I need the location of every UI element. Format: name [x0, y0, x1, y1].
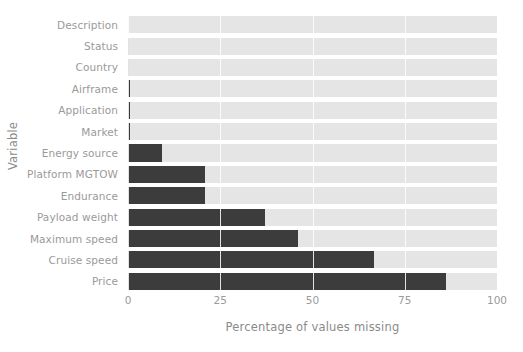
bar-track: [128, 209, 497, 226]
bar-track: [128, 144, 497, 161]
y-axis-tick-label: Platform MGTOW: [27, 167, 118, 181]
bar-track: [128, 123, 497, 140]
bar-track: [128, 38, 497, 55]
x-axis-title: Percentage of values missing: [128, 320, 497, 334]
y-axis-tick-label: Description: [57, 18, 118, 32]
bar-fill: [128, 273, 446, 290]
bar-fill: [128, 80, 130, 97]
bar-fill: [128, 123, 130, 140]
bar-track: [128, 273, 497, 290]
bar-track: [128, 187, 497, 204]
y-axis-tick-label: Country: [76, 60, 118, 74]
bar-track: [128, 59, 497, 76]
bar-fill: [128, 144, 162, 161]
y-axis-tick-label: Market: [81, 125, 118, 139]
missing-values-bar-chart: Variable DescriptionStatusCountryAirfram…: [0, 0, 523, 352]
x-axis-tick-label: 0: [125, 294, 132, 306]
bar-fill: [128, 38, 129, 55]
bar-fill: [128, 209, 265, 226]
y-axis-tick-labels: DescriptionStatusCountryAirframeApplicat…: [26, 14, 124, 292]
bar-fill: [128, 166, 205, 183]
bar-track: [128, 80, 497, 97]
y-axis-tick-label: Energy source: [42, 146, 118, 160]
x-axis-tick-label: 50: [306, 294, 319, 306]
bar-fill: [128, 251, 374, 268]
bar-fill: [128, 230, 298, 247]
bar-fill: [128, 102, 130, 119]
y-axis-tick-label: Airframe: [72, 82, 118, 96]
y-axis-tick-label: Maximum speed: [30, 232, 118, 246]
y-axis-tick-label: Application: [58, 103, 118, 117]
bar-track: [128, 102, 497, 119]
y-axis-title-text: Variable: [6, 122, 20, 170]
x-axis-tick-label: 25: [214, 294, 227, 306]
bar-track: [128, 230, 497, 247]
bar-track: [128, 166, 497, 183]
bar-track: [128, 16, 497, 33]
plot-area: [128, 14, 497, 292]
y-axis-title: Variable: [0, 0, 26, 292]
x-axis-tick-label: 75: [398, 294, 411, 306]
bar-fill: [128, 59, 129, 76]
x-axis-tick-label: 100: [487, 294, 507, 306]
y-axis-tick-label: Payload weight: [37, 210, 118, 224]
y-axis-tick-label: Cruise speed: [49, 253, 118, 267]
x-axis-tick-labels: 0255075100: [128, 294, 497, 310]
bar-fill: [128, 187, 205, 204]
bar-track: [128, 251, 497, 268]
gridline: [497, 14, 498, 292]
y-axis-tick-label: Status: [84, 39, 118, 53]
y-axis-tick-label: Endurance: [61, 189, 118, 203]
y-axis-tick-label: Price: [92, 274, 118, 288]
